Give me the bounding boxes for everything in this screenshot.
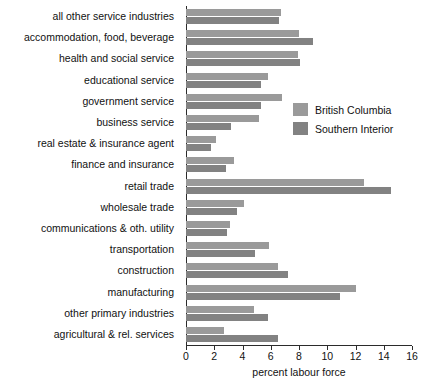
category-label: communications & oth. utility xyxy=(0,218,180,239)
bar xyxy=(186,9,281,16)
bar xyxy=(186,51,298,58)
tick-label: 8 xyxy=(296,350,302,362)
legend-item-british-columbia: British Columbia xyxy=(293,103,393,116)
bar xyxy=(186,285,356,292)
tick-label: 16 xyxy=(406,350,418,362)
category-label: manufacturing xyxy=(0,281,180,302)
bar xyxy=(186,81,261,88)
tick-label: 12 xyxy=(350,350,362,362)
category-label: all other service industries xyxy=(0,6,180,27)
bar-group xyxy=(186,154,412,175)
legend-label: British Columbia xyxy=(315,104,391,116)
category-label: educational service xyxy=(0,70,180,91)
bar xyxy=(186,115,259,122)
category-label: agricultural & rel. services xyxy=(0,324,180,345)
bar-group xyxy=(186,239,412,260)
bar xyxy=(186,187,391,194)
bar xyxy=(186,59,300,66)
legend-swatch-icon xyxy=(293,103,308,116)
bar xyxy=(186,17,279,24)
bar xyxy=(186,271,288,278)
bar xyxy=(186,94,282,101)
bar xyxy=(186,208,237,215)
bar xyxy=(186,200,244,207)
category-label: other primary industries xyxy=(0,303,180,324)
bar xyxy=(186,165,226,172)
bar xyxy=(186,229,227,236)
bar-group xyxy=(186,6,412,27)
bar xyxy=(186,38,313,45)
bar xyxy=(186,293,340,300)
category-label: business service xyxy=(0,112,180,133)
bar xyxy=(186,144,211,151)
tick-label: 4 xyxy=(240,350,246,362)
bar xyxy=(186,221,230,228)
category-label: accommodation, food, beverage xyxy=(0,27,180,48)
bar-chart: all other service industries accommodati… xyxy=(0,0,428,388)
bar xyxy=(186,306,254,313)
category-label: transportation xyxy=(0,239,180,260)
bar xyxy=(186,263,278,270)
bar-group xyxy=(186,176,412,197)
tick-label: 14 xyxy=(378,350,390,362)
category-label: government service xyxy=(0,91,180,112)
bar-group xyxy=(186,133,412,154)
category-label: construction xyxy=(0,260,180,281)
bar-group xyxy=(186,197,412,218)
tick-label: 10 xyxy=(321,350,333,362)
category-label: retail trade xyxy=(0,176,180,197)
value-axis-ticks: 0246810121416 xyxy=(186,346,412,366)
legend-item-southern-interior: Southern Interior xyxy=(293,122,393,135)
bar-group xyxy=(186,218,412,239)
tick-label: 0 xyxy=(183,350,189,362)
tick-label: 6 xyxy=(268,350,274,362)
bar-group xyxy=(186,48,412,69)
bar xyxy=(186,30,299,37)
bar xyxy=(186,250,255,257)
category-label: finance and insurance xyxy=(0,154,180,175)
bar xyxy=(186,102,261,109)
legend-swatch-icon xyxy=(293,122,308,135)
bar xyxy=(186,314,268,321)
bar xyxy=(186,179,364,186)
category-label: wholesale trade xyxy=(0,197,180,218)
legend-label: Southern Interior xyxy=(315,123,393,135)
category-label: health and social service xyxy=(0,48,180,69)
bar xyxy=(186,123,231,130)
bar-group xyxy=(186,303,412,324)
tick-label: 2 xyxy=(211,350,217,362)
bar-rows xyxy=(186,6,412,345)
bar-group xyxy=(186,27,412,48)
bar-group xyxy=(186,70,412,91)
category-axis-labels: all other service industries accommodati… xyxy=(0,6,180,345)
bar-group xyxy=(186,324,412,345)
bar xyxy=(186,242,269,249)
bar-group xyxy=(186,281,412,302)
x-axis-title: percent labour force xyxy=(186,366,412,378)
category-label: real estate & insurance agent xyxy=(0,133,180,154)
plot-area xyxy=(186,6,412,345)
bar xyxy=(186,136,216,143)
bar xyxy=(186,157,234,164)
bar xyxy=(186,335,278,342)
chart-legend: British Columbia Southern Interior xyxy=(293,103,393,135)
bar xyxy=(186,73,268,80)
bar xyxy=(186,327,224,334)
bar-group xyxy=(186,260,412,281)
